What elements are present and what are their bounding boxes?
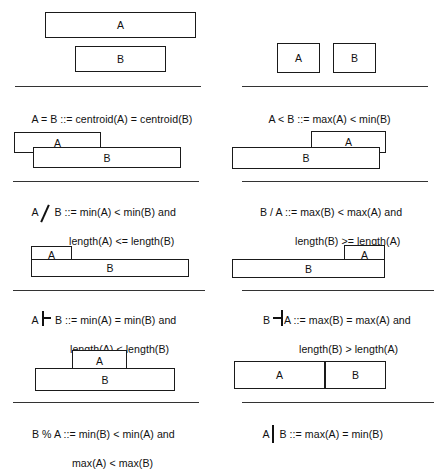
figure-percent: A B <box>0 344 219 400</box>
reverse-turnstile-operator-icon <box>273 313 284 326</box>
rect-a-label: A <box>73 356 126 367</box>
rect-a: A <box>45 12 196 38</box>
rect-b-label: B <box>233 153 379 164</box>
panel-separator-rule <box>242 181 428 182</box>
figure-equals: A B <box>0 0 219 82</box>
panel-separator-rule <box>13 290 205 291</box>
rect-b-label: B <box>32 263 188 274</box>
formula-rhs: max(B) = max(A) and <box>309 314 411 326</box>
backslash-operator-icon <box>39 206 52 219</box>
panel-meets: A B A B ::= max(A) = min(B) <box>219 344 439 453</box>
figure-backslash: A B <box>0 120 219 178</box>
panel-backslash: A B A B ::= min(A) < min(B) and length(A… <box>0 120 219 240</box>
formula-mid: B ::= <box>52 206 80 218</box>
figure-less-than: A B <box>219 0 439 82</box>
panel-reverse-turnstile: A B B A ::= max(B) = max(A) and length(B… <box>219 238 439 346</box>
formula-lhs: B % A ::= <box>32 428 79 440</box>
formula-lhs: B / A ::= <box>260 206 300 218</box>
vertical-bar-operator-icon <box>270 428 277 441</box>
figure-meets: A B <box>219 344 439 400</box>
figure-turnstile: A B <box>0 238 219 286</box>
rect-b: B <box>31 259 189 277</box>
formula-rhs: max(B) < max(A) and <box>300 206 402 218</box>
formula-lhs: A <box>262 428 269 440</box>
formula-rhs: min(A) < min(B) and <box>80 206 176 218</box>
panel-less-than: A B A < B ::= max(A) < min(B) <box>219 0 439 120</box>
formula-percent: B % A ::= min(B) < min(A) and max(A) < m… <box>14 412 175 473</box>
figure-reverse-turnstile: A B <box>219 238 439 286</box>
rect-b-label: B <box>233 263 384 274</box>
panel-separator-rule <box>13 181 199 182</box>
rect-b: B <box>232 259 385 278</box>
figure-slash: A B <box>219 120 439 178</box>
rect-a: A <box>234 361 325 389</box>
rect-b-label: B <box>334 53 375 64</box>
panel-percent: A B B % A ::= min(B) < min(A) and max(A)… <box>0 344 219 453</box>
panel-turnstile: A B A B ::= min(A) = min(B) and length(A… <box>0 238 219 346</box>
rect-a-label: A <box>278 53 319 64</box>
panel-separator-rule <box>242 290 434 291</box>
rect-b: B <box>35 368 175 391</box>
formula-mid: B ::= <box>52 314 80 326</box>
rect-b-label: B <box>326 370 385 381</box>
rect-a-label: A <box>46 20 195 31</box>
formula-rhs: min(A) = min(B) and <box>80 314 176 326</box>
panel-separator-rule <box>13 402 199 403</box>
formula-mid: B ::= <box>277 428 305 440</box>
rect-b: B <box>33 147 181 168</box>
panel-separator-rule <box>242 402 434 403</box>
panel-slash: A B B / A ::= max(B) < max(A) and length… <box>219 120 439 240</box>
formula-mid: A ::= <box>284 314 309 326</box>
formula-meets: A B ::= max(A) = min(B) <box>245 412 383 456</box>
rect-b: B <box>232 147 380 169</box>
formula-lhs: B <box>263 314 273 326</box>
formula-lhs: A <box>31 206 38 218</box>
rect-a: A <box>277 43 320 73</box>
formula-rhs: max(A) = min(B) <box>305 428 383 440</box>
formula-rhs: min(B) < min(A) and <box>79 428 175 440</box>
turnstile-operator-icon <box>41 313 52 326</box>
formula-lhs: A <box>31 314 41 326</box>
formula-continuation: max(A) < max(B) <box>14 456 175 471</box>
panel-equals: A B A = B ::= centroid(A) = centroid(B) <box>0 0 219 120</box>
rect-b: B <box>325 361 386 389</box>
rect-a-label: A <box>312 137 385 148</box>
rect-b-label: B <box>76 54 165 65</box>
panel-separator-rule <box>15 86 201 87</box>
rect-b: B <box>333 43 376 73</box>
panel-separator-rule <box>242 86 428 87</box>
rect-a-label: A <box>235 370 324 381</box>
rect-b-label: B <box>34 152 180 163</box>
rect-b: B <box>75 46 166 72</box>
rect-b-label: B <box>36 374 174 385</box>
